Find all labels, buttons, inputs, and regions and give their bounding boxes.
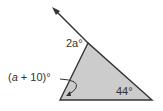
ext-degree: ° [46,71,50,83]
triangle-diagram [0,0,163,111]
label-exterior-angle: (a + 10)° [8,72,51,83]
top-angle-degree: ° [78,37,82,49]
ext-rest: + 10) [18,71,46,83]
label-bottom-right-angle: 44° [116,86,133,97]
label-top-angle: 2a° [66,38,83,49]
top-angle-var: 2a [66,37,78,49]
